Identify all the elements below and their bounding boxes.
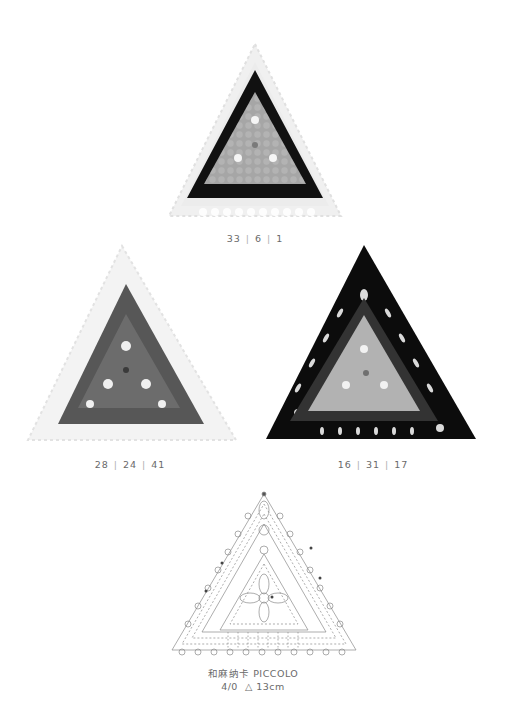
crochet-triangle-image <box>22 244 242 449</box>
motif-left <box>22 244 242 449</box>
caption-separator: | <box>142 459 146 470</box>
motif-right-caption: 16|31|17 <box>318 459 428 470</box>
caption-part: 16 <box>338 459 352 470</box>
yarn-name: 和麻纳卡 PICCOLO <box>0 667 506 680</box>
caption-separator: | <box>114 459 118 470</box>
caption-part: 6 <box>255 233 262 244</box>
caption-part: 33 <box>227 233 241 244</box>
caption-separator: | <box>357 459 361 470</box>
crochet-chart-diagram <box>168 490 360 658</box>
caption-part: 41 <box>151 459 165 470</box>
caption-part: 24 <box>123 459 137 470</box>
caption-part: 28 <box>95 459 109 470</box>
crochet-triangle-image <box>262 243 482 448</box>
crochet-triangle-image <box>163 40 348 225</box>
caption-separator: | <box>385 459 389 470</box>
stitch-chart-image <box>168 490 360 658</box>
caption-separator: | <box>246 233 250 244</box>
caption-part: 31 <box>366 459 380 470</box>
motif-top <box>163 40 348 225</box>
motif-right <box>262 243 482 448</box>
yarn-spec-caption: 和麻纳卡 PICCOLO 4/0 △ 13cm <box>0 667 506 693</box>
caption-part: 17 <box>394 459 408 470</box>
motif-left-caption: 28|24|41 <box>70 459 190 470</box>
hook-size-and-dimension: 4/0 △ 13cm <box>0 680 506 693</box>
